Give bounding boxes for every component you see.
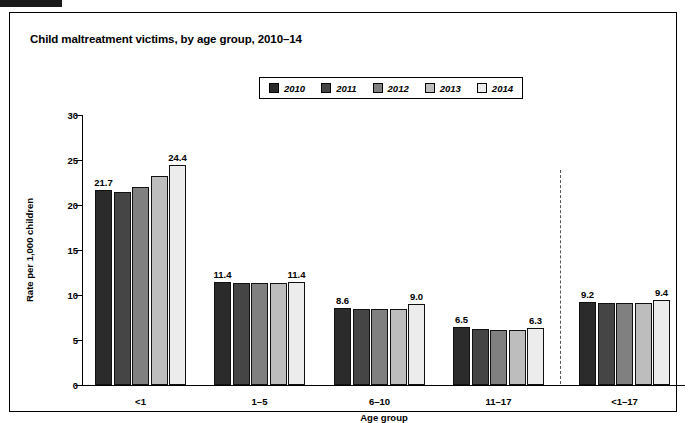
bar: 21.7 <box>95 190 112 385</box>
bar: 9.0 <box>408 304 425 385</box>
bar-value-label: 11.4 <box>288 269 306 280</box>
legend-item-2013: 2013 <box>425 83 461 94</box>
bar-value-label: 11.4 <box>214 269 232 280</box>
x-axis-title: Age group <box>360 412 408 423</box>
legend-item-2014: 2014 <box>477 83 513 94</box>
y-tick-label: 10 <box>67 290 78 301</box>
legend-label: 2014 <box>492 83 513 94</box>
bar: 8.6 <box>334 308 351 385</box>
bar <box>635 303 652 385</box>
bar: 11.4 <box>288 282 305 385</box>
x-group-label-1: 1–5 <box>252 396 268 407</box>
bar <box>251 283 268 385</box>
legend-label: 2010 <box>284 83 305 94</box>
bar-value-label: 8.6 <box>336 295 349 306</box>
y-tick-label: 20 <box>67 200 78 211</box>
bar: 11.4 <box>214 282 231 385</box>
bar: 9.2 <box>579 302 596 385</box>
bar-value-label: 9.0 <box>410 291 423 302</box>
bar <box>132 187 149 385</box>
bar <box>509 330 526 385</box>
bar <box>270 283 287 385</box>
figure-frame: Child maltreatment victims, by age group… <box>9 12 677 412</box>
legend-swatch-icon-2010 <box>269 83 279 93</box>
bar <box>472 329 489 385</box>
bar <box>598 303 615 385</box>
dashed-divider-line <box>560 170 561 384</box>
legend-label: 2012 <box>388 83 409 94</box>
x-group-label-4: <1–17 <box>611 396 638 407</box>
legend-swatch-icon-2013 <box>425 83 435 93</box>
y-tick-label: 30 <box>67 110 78 121</box>
plot-area: 05101520253021.724.411.411.48.69.06.56.3… <box>82 115 678 385</box>
bar-value-label: 6.5 <box>455 314 468 325</box>
bar: 6.3 <box>527 328 544 385</box>
y-tick-label: 25 <box>67 155 78 166</box>
bar <box>353 309 370 385</box>
chart-legend: 20102011201220132014 <box>259 77 523 99</box>
x-group-label-0: <1 <box>135 396 146 407</box>
bar-value-label: 9.4 <box>655 287 668 298</box>
legend-swatch-icon-2014 <box>477 83 487 93</box>
legend-item-2011: 2011 <box>321 83 356 94</box>
y-tick-label: 0 <box>73 380 78 391</box>
bar-value-label: 9.2 <box>581 289 594 300</box>
bar-value-label: 24.4 <box>168 152 187 163</box>
y-axis-title: Rate per 1,000 children <box>24 198 35 302</box>
bar <box>390 309 407 386</box>
legend-item-2012: 2012 <box>373 83 409 94</box>
legend-label: 2013 <box>440 83 461 94</box>
y-tick-label: 5 <box>73 335 78 346</box>
bar <box>616 303 633 385</box>
y-tick-label: 15 <box>67 245 78 256</box>
legend-item-2010: 2010 <box>269 83 305 94</box>
bar <box>371 309 388 386</box>
bar <box>233 283 250 385</box>
legend-label: 2011 <box>336 83 356 94</box>
x-group-label-3: 11–17 <box>486 396 512 407</box>
bar: 24.4 <box>169 165 186 385</box>
bar: 9.4 <box>653 300 670 385</box>
bar-value-label: 6.3 <box>529 315 542 326</box>
chart-title: Child maltreatment victims, by age group… <box>30 33 302 45</box>
x-group-label-2: 6–10 <box>369 396 390 407</box>
legend-swatch-icon-2012 <box>373 83 383 93</box>
bar <box>114 192 131 385</box>
bar <box>490 330 507 385</box>
bar: 6.5 <box>453 327 470 386</box>
page-scan-artifact-bar <box>0 0 62 7</box>
bar-value-label: 21.7 <box>94 177 113 188</box>
legend-swatch-icon-2011 <box>321 83 331 93</box>
bar <box>151 176 168 385</box>
